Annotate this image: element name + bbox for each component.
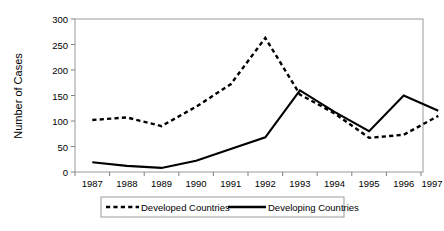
legend-label-developing-countries: Developing Countries (268, 202, 359, 213)
x-tick-label: 1991 (220, 178, 241, 189)
x-tick-label: 1987 (82, 178, 103, 189)
chart-legend: Developed Countries Developing Countries (101, 197, 359, 217)
chart-figure: Number of Cases 300 250 200 150 100 50 0 (0, 0, 444, 231)
y-tick-label: 100 (52, 116, 68, 127)
y-tick-label: 0 (63, 167, 68, 178)
y-tick-label: 300 (52, 14, 68, 25)
x-tick-label: 1990 (186, 178, 207, 189)
x-tick-label: 1988 (116, 178, 137, 189)
x-tick-label: 1994 (324, 178, 345, 189)
y-tick-label: 250 (52, 40, 68, 51)
y-tick-label: 150 (52, 91, 68, 102)
line-chart-svg: Number of Cases 300 250 200 150 100 50 0 (0, 0, 444, 231)
x-tick-label: 1989 (151, 178, 172, 189)
y-tick-label: 200 (52, 65, 68, 76)
x-tick-label: 1993 (289, 178, 310, 189)
legend-label-developed-countries: Developed Countries (141, 202, 230, 213)
x-tick-label: 1996 (393, 178, 414, 189)
x-tick-label: 1995 (359, 178, 380, 189)
x-tick-label: 1997 (421, 178, 442, 189)
y-axis-title: Number of Cases (12, 53, 24, 139)
x-tick-label: 1992 (255, 178, 276, 189)
y-tick-label: 50 (57, 142, 68, 153)
